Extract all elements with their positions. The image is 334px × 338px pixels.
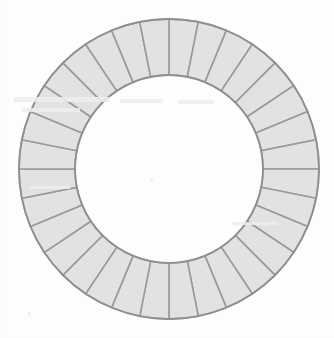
- ring-inner-edge: [75, 75, 263, 263]
- ring-segments-group: [19, 19, 319, 319]
- segmented-ring-figure: [0, 0, 334, 338]
- diagram-canvas: [0, 0, 334, 338]
